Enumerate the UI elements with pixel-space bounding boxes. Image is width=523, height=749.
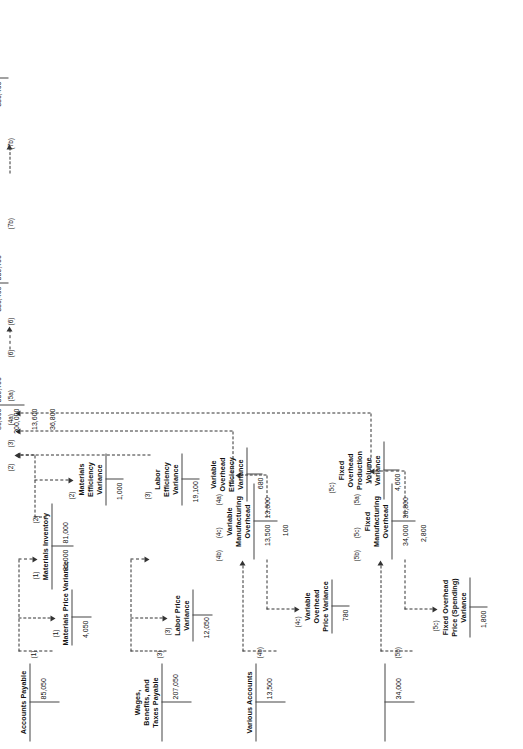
- wip-ref-5a: (5a): [6, 390, 13, 401]
- account-fixed-overhead-price-variance: Fixed OverheadPrice (Spending)Variance 1…: [440, 577, 487, 637]
- account-labor-price-variance: Labor PriceVariance 12,050 (3): [172, 589, 212, 641]
- entry-ref: (4b): [255, 647, 264, 658]
- fg-ref-7b: (7b): [6, 218, 13, 229]
- account-title: LaborEfficiencyVariance: [152, 453, 179, 505]
- entry-amount: 330,400: [0, 255, 1, 280]
- connector-mi-to-mev: [34, 479, 68, 480]
- arrow-mi-to-mev: [68, 477, 73, 483]
- arrow-ap-to-mpv: [50, 615, 55, 621]
- entry-ref: (1): [51, 629, 60, 637]
- entry-ref: (5c): [431, 620, 440, 631]
- entry-amount: 36,800: [48, 408, 55, 429]
- connector-ap-to-mpv: [18, 617, 50, 618]
- account-materials-price-variance: Materials Price Variance 4,050 (1): [60, 589, 91, 645]
- account-accounts-payable: Accounts Payable 85,050 (1): [18, 663, 59, 741]
- entry-ref: (1): [31, 571, 40, 579]
- arrow-fmoh-to-fopv: [432, 606, 437, 612]
- account-cost-of-goods-sold: Cost of GoodsSold 330,400: [0, 29, 8, 127]
- entry-amount: 34,000: [394, 678, 401, 699]
- wip-ref-6: (6): [6, 349, 13, 357]
- arrow-various-to-vmoh: [239, 560, 245, 565]
- entry-amount: 100: [281, 524, 288, 536]
- entry-amount: 85,050: [39, 678, 46, 699]
- account-variable-overhead-efficiency-variance: VariableOverheadEfficiencyVariance 680: [208, 447, 262, 501]
- connector-ap-right: [18, 559, 19, 651]
- arrow-vmoh-to-vopv: [294, 606, 299, 612]
- entry-amount: 80,000: [0, 408, 1, 429]
- entry-amount: 13,500: [265, 678, 272, 699]
- arrow-wages-to-lpv: [162, 615, 167, 621]
- account-title: Fixed OverheadPrice (Spending)Variance: [440, 577, 467, 637]
- arrow-wages-to-lev: [144, 556, 149, 562]
- entry-amount: 1,800: [479, 610, 486, 628]
- entry-amount: 680: [256, 477, 263, 489]
- arrow-wip-to-fg: [6, 326, 12, 331]
- entry-amount: 330,400: [0, 286, 1, 311]
- entry-ref: (3): [143, 491, 152, 499]
- entry-ref: (5b): [393, 647, 402, 658]
- connector-mi-right: [34, 455, 35, 517]
- account-title: VariableOverheadPrice Variance: [302, 579, 329, 633]
- account-title: MaterialsEfficiencyVariance: [76, 453, 103, 505]
- tacct-flow-diagram: Accounts Payable 85,050 (1) Materials Pr…: [0, 0, 523, 749]
- entry-ref: (3): [163, 627, 172, 635]
- entry-amount: 13,600: [30, 408, 37, 429]
- account-various-accounts: Various Accounts 13,500 (4b): [244, 663, 285, 741]
- entry-amount: 34,000: [401, 524, 408, 545]
- entry-amount: 19,100: [191, 481, 198, 502]
- account-wages-payable: Wages,Benefits, andTaxes Payable 207,050…: [132, 663, 191, 741]
- account-title: VariableOverheadEfficiencyVariance: [208, 447, 244, 501]
- fg-ref-6: (6): [6, 317, 13, 325]
- connector-fmoh-price-v: [404, 608, 432, 609]
- arrow-fg-to-cogs: [6, 144, 12, 149]
- wip-ref-2: (2): [6, 463, 13, 471]
- account-fixed-overhead-production-volume-variance: FixedOverheadProductionVolumeVariance 4,…: [336, 441, 399, 499]
- account-title: Various Accounts: [244, 663, 253, 741]
- arrow-mi-wip-head: [14, 452, 19, 458]
- account-materials-efficiency-variance: MaterialsEfficiencyVariance 1,000 (2): [76, 453, 123, 505]
- entry-amount: 4,050: [81, 620, 88, 638]
- entry-amount: 81,000: [61, 522, 68, 543]
- connector-mi-out: [34, 516, 46, 517]
- entry-amount: 2,800: [419, 524, 426, 542]
- connector-wip-to-fg: [9, 329, 10, 349]
- account-title: FixedOverheadProductionVolumeVariance: [336, 441, 381, 499]
- connector-wages-to-lev: [130, 558, 144, 559]
- arrow-ap-to-mi: [32, 556, 37, 562]
- account-title: Labor PriceVariance: [172, 589, 190, 641]
- connector-wages-right: [130, 559, 131, 651]
- account-various-accounts-fixed: 34,000 (5b): [382, 663, 414, 741]
- connector-ap-up: [18, 650, 52, 651]
- connector-fmoh-to-wip: [20, 412, 370, 413]
- connector-various-fmoh: [380, 650, 412, 651]
- entry-amount: 81,000: [61, 549, 68, 570]
- connector-various-vmoh: [242, 650, 276, 651]
- connector-vmoh-price-v: [266, 608, 294, 609]
- entry-amount: 330,400: [0, 377, 1, 402]
- account-title: Accounts Payable: [18, 663, 27, 741]
- entry-ref: (2): [67, 491, 76, 499]
- account-variable-overhead-price-variance: VariableOverheadPrice Variance 780 (4c): [302, 579, 349, 633]
- connector-various-fmoh-h: [380, 565, 381, 651]
- entry-ref: (4b) (4c): [214, 527, 223, 561]
- entry-amount: 330,400: [0, 81, 1, 106]
- entry-ref: (5b) (5c): [352, 527, 361, 561]
- entry-amount: 1,000: [115, 482, 122, 500]
- connector-various-right: [242, 565, 243, 651]
- entry-ref: (4c): [293, 616, 302, 627]
- entry-amount: 207,050: [171, 674, 178, 699]
- wip-ref-3: (3): [6, 439, 13, 447]
- account-labor-efficiency-variance: LaborEfficiencyVariance 19,100 (3): [152, 453, 199, 505]
- connector-fmoh-to-wip-h: [370, 413, 371, 483]
- account-title: Materials Price Variance: [60, 589, 69, 645]
- connector-fmoh-price: [404, 559, 405, 609]
- entry-ref: (5c): [327, 482, 336, 493]
- connector-ap-to-mi: [18, 558, 32, 559]
- account-title: Wages,Benefits, andTaxes Payable: [132, 663, 159, 741]
- connector-fg-to-cogs: [9, 147, 10, 173]
- entry-amount: 12,050: [202, 617, 209, 638]
- connector-vmoh-price: [266, 559, 267, 609]
- arrow-various-to-fmoh: [377, 560, 383, 565]
- entry-amount: 4,600: [393, 473, 400, 491]
- connector-wages-to-lpv: [130, 617, 162, 618]
